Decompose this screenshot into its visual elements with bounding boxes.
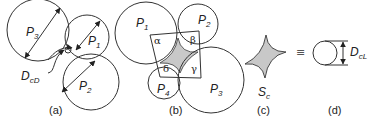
panel-a: P3 P1 P2 DcD (a) — [7, 0, 119, 116]
caption-b: (b) — [169, 104, 182, 116]
p3-label: P3 — [26, 25, 39, 41]
p1-label: P1 — [88, 34, 100, 50]
sc-label: Sc — [258, 85, 270, 101]
panel-b: P1 P2 P3 P4 α β γ δ (b) — [115, 2, 244, 116]
p3-label: P3 — [210, 82, 223, 98]
gamma-label: γ — [191, 63, 197, 74]
dcl-label: DcL — [350, 45, 367, 61]
alpha-label: α — [154, 35, 161, 46]
pore-geometry-diagram: P3 P1 P2 DcD (a) P1 P2 P3 P4 α β γ δ (b)… — [0, 0, 378, 124]
particle-p2-circle — [63, 54, 119, 110]
p1-label: P1 — [136, 16, 148, 32]
dcd-leader-arrow — [48, 50, 64, 73]
panel-c: Sc (c) — [245, 35, 286, 116]
delta-label: δ — [163, 63, 169, 74]
particle-p3-circle — [178, 47, 244, 113]
beta-label: β — [190, 34, 196, 45]
equivalence-symbol: ≡ — [296, 46, 305, 59]
pore-shape-sc — [245, 35, 286, 78]
p2-label: P2 — [79, 79, 92, 95]
panel-d: DcL (d) — [313, 41, 367, 116]
particle-p1-circle — [115, 2, 177, 64]
caption-c: (c) — [257, 104, 270, 116]
p2-label: P2 — [198, 13, 211, 29]
dcd-label: DcD — [21, 69, 40, 85]
caption-a: (a) — [49, 104, 62, 116]
caption-d: (d) — [328, 104, 341, 116]
equivalent-circle — [313, 41, 337, 65]
p4-label: P4 — [157, 82, 170, 98]
